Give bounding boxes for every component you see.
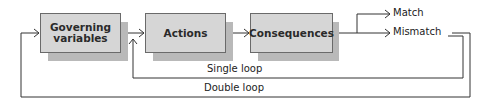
single-loop-label: Single loop [207, 63, 262, 74]
consequences-label: Consequences [249, 28, 334, 39]
match-label: Match [393, 7, 424, 18]
actions-box: Actions [145, 13, 226, 53]
actions-label: Actions [164, 28, 208, 39]
mismatch-label: Mismatch [393, 26, 441, 37]
consequences-box: Consequences [250, 13, 333, 53]
governing-label-line2: variables [50, 33, 111, 44]
double-loop-label: Double loop [204, 82, 264, 93]
governing-variables-box: Governing variables [40, 13, 121, 53]
arrow-to-match [357, 14, 390, 33]
